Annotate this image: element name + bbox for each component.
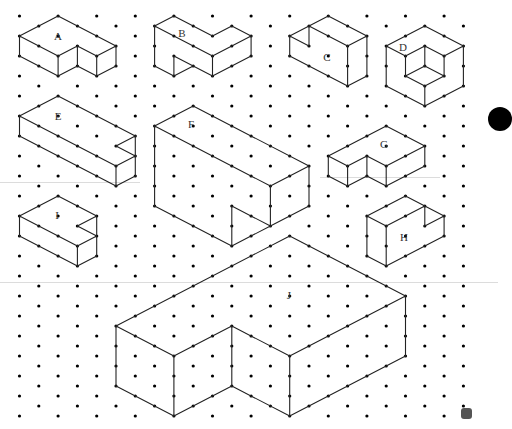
grid-dot: [443, 114, 446, 117]
grid-dot: [462, 344, 465, 347]
grid-dot: [211, 374, 214, 377]
grid-dot: [134, 354, 137, 357]
grid-dot: [269, 124, 272, 127]
grid-dot: [462, 104, 465, 107]
shape-label-e: E: [55, 111, 62, 122]
grid-dot: [327, 234, 330, 237]
grid-dot: [172, 194, 175, 197]
grid-dot: [346, 304, 349, 307]
grid-dot: [365, 94, 368, 97]
grid-dot: [327, 114, 330, 117]
grid-dot: [37, 164, 40, 167]
grid-dot: [307, 284, 310, 287]
grid-dot: [288, 94, 291, 97]
grid-dot: [134, 374, 137, 377]
grid-dot: [192, 324, 195, 327]
grid-dot: [153, 104, 156, 107]
grid-dot: [327, 354, 330, 357]
grid-dot: [153, 384, 156, 387]
grid-dot: [365, 334, 368, 337]
grid-dot: [76, 344, 79, 347]
grid-dot: [385, 24, 388, 27]
grid-dot: [269, 24, 272, 27]
grid-dot: [172, 254, 175, 257]
shape-label-c: C: [323, 52, 330, 63]
grid-dot: [462, 384, 465, 387]
grid-dot: [76, 184, 79, 187]
grid-dot: [230, 404, 233, 407]
grid-dot: [172, 94, 175, 97]
grid-dot: [192, 84, 195, 87]
grid-dot: [346, 344, 349, 347]
grid-dot: [443, 134, 446, 137]
grid-dot: [18, 174, 21, 177]
grid-dot: [18, 194, 21, 197]
grid-dot: [250, 414, 253, 417]
grid-dot: [346, 104, 349, 107]
grid-dot: [57, 274, 60, 277]
grid-dot: [327, 194, 330, 197]
grid-dot: [18, 394, 21, 397]
grid-dot: [37, 304, 40, 307]
shape-label-d: D: [399, 42, 407, 53]
grid-dot: [443, 194, 446, 197]
grid-dot: [95, 274, 98, 277]
grid-dot: [269, 64, 272, 67]
grid-dot: [307, 304, 310, 307]
grid-dot: [307, 264, 310, 267]
grid-dot: [95, 334, 98, 337]
grid-dot: [134, 54, 137, 57]
grid-dot: [134, 94, 137, 97]
grid-dot: [443, 414, 446, 417]
grid-dot: [114, 304, 117, 307]
grid-dot: [385, 384, 388, 387]
grid-dot: [76, 324, 79, 327]
grid-dot: [462, 244, 465, 247]
grid-dot: [423, 404, 426, 407]
grid-dot: [443, 394, 446, 397]
grid-dot: [269, 364, 272, 367]
grid-dot: [288, 74, 291, 77]
grid-dot: [57, 294, 60, 297]
grid-dot: [462, 144, 465, 147]
grid-dot: [462, 164, 465, 167]
grid-dot: [95, 374, 98, 377]
grid-dot: [114, 244, 117, 247]
grid-dot: [269, 44, 272, 47]
grid-dot: [114, 404, 117, 407]
grid-dot: [346, 364, 349, 367]
grid-dot: [462, 324, 465, 327]
grid-dot: [37, 264, 40, 267]
grid-dot: [95, 414, 98, 417]
grid-dot: [443, 314, 446, 317]
grid-dot: [134, 14, 137, 17]
grid-dot: [423, 264, 426, 267]
grid-dot: [18, 254, 21, 257]
grid-dot: [346, 404, 349, 407]
grid-dot: [250, 274, 253, 277]
grid-dot: [404, 394, 407, 397]
grid-dot: [423, 124, 426, 127]
grid-dot: [172, 274, 175, 277]
grid-dot: [134, 274, 137, 277]
grid-dot: [327, 274, 330, 277]
grid-dot: [288, 194, 291, 197]
grid-dot: [307, 364, 310, 367]
grid-dot: [134, 254, 137, 257]
grid-dot: [307, 224, 310, 227]
grid-dot: [153, 284, 156, 287]
grid-dot: [250, 154, 253, 157]
corner-handle-icon[interactable]: [461, 408, 472, 419]
grid-dot: [443, 374, 446, 377]
grid-dot: [230, 304, 233, 307]
grid-dot: [423, 304, 426, 307]
grid-dot: [307, 104, 310, 107]
shape-label-g: G: [380, 139, 388, 150]
grid-dot: [134, 214, 137, 217]
grid-dot: [211, 414, 214, 417]
grid-dot: [327, 134, 330, 137]
grid-dot: [18, 334, 21, 337]
grid-dot: [288, 114, 291, 117]
grid-dot: [327, 374, 330, 377]
grid-dot: [172, 334, 175, 337]
